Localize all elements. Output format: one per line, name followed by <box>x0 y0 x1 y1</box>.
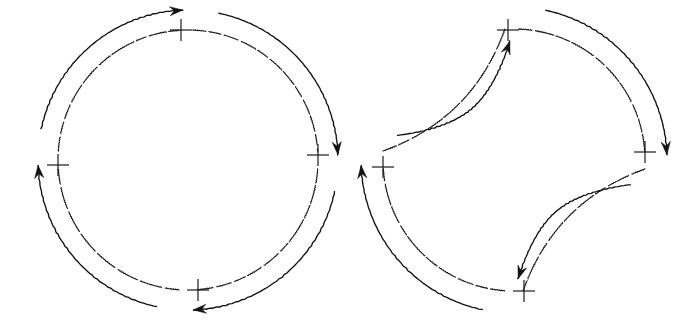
figure-canvas <box>0 0 695 322</box>
figure-background <box>0 0 695 322</box>
